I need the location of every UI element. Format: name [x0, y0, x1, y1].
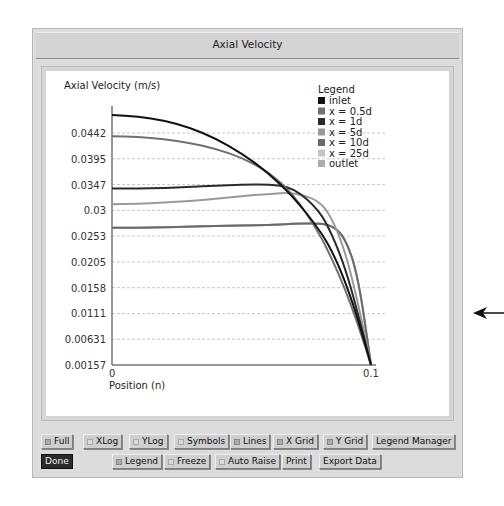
y-tick-label: 0.0395 — [71, 154, 106, 165]
y-tick-label: 0.0442 — [71, 128, 106, 139]
full-label: Full — [54, 434, 69, 449]
legend-manager-label: Legend Manager — [376, 434, 451, 449]
legend-entry: x = 1d — [329, 116, 362, 127]
ylog-button[interactable]: YLog — [129, 434, 168, 449]
legend-swatch — [318, 118, 325, 125]
xlog-button[interactable]: XLog — [83, 434, 122, 449]
y-tick-label: 0.00157 — [65, 360, 106, 371]
ylog-label: YLog — [142, 434, 164, 449]
xlog-label: XLog — [96, 434, 118, 449]
y-axis-label: Axial Velocity (m/s) — [64, 80, 160, 91]
series-line — [112, 184, 371, 365]
legend-manager-button[interactable]: Legend Manager — [372, 434, 455, 449]
freeze-indicator-icon — [168, 459, 174, 465]
auto-raise-indicator-icon — [219, 459, 225, 465]
ylog-indicator-icon — [133, 439, 139, 445]
x-grid-button[interactable]: X Grid — [273, 434, 318, 449]
x-axis-label: Position (n) — [109, 380, 165, 391]
legend-entry: x = 25d — [329, 148, 369, 159]
y-tick-label: 0.0205 — [71, 257, 106, 268]
legend-swatch — [318, 97, 325, 104]
xlog-indicator-icon — [87, 439, 93, 445]
freeze-label: Freeze — [177, 454, 206, 469]
series-line — [112, 224, 371, 365]
axial-velocity-chart: Axial Velocity (m/s)0.04420.03950.03470.… — [46, 71, 451, 418]
y-tick-label: 0.0347 — [71, 180, 106, 191]
y-grid-indicator-icon — [327, 439, 333, 445]
legend-title: Legend — [318, 84, 355, 95]
lines-label: Lines — [243, 434, 266, 449]
pointer-arrow-icon — [473, 306, 504, 320]
legend-entry: inlet — [329, 95, 351, 106]
print-label: Print — [286, 454, 307, 469]
symbols-label: Symbols — [187, 434, 225, 449]
y-tick-label: 0.0253 — [71, 231, 106, 242]
legend-swatch — [318, 108, 325, 115]
legend-swatch — [318, 139, 325, 146]
x-grid-indicator-icon — [277, 439, 283, 445]
lines-button[interactable]: Lines — [230, 434, 270, 449]
legend-entry: x = 5d — [329, 127, 362, 138]
freeze-button[interactable]: Freeze — [164, 454, 210, 469]
auto-raise-button[interactable]: Auto Raise — [215, 454, 280, 469]
window-titlebar[interactable]: Axial Velocity — [36, 32, 459, 59]
y-grid-button[interactable]: Y Grid — [323, 434, 367, 449]
legend-swatch — [318, 150, 325, 157]
axial-velocity-window: Axial Velocity Axial Velocity (m/s)0.044… — [32, 28, 463, 478]
legend-entry: outlet — [329, 158, 358, 169]
export-data-button[interactable]: Export Data — [319, 454, 381, 469]
legend-button[interactable]: Legend — [112, 454, 162, 469]
series-line — [112, 224, 371, 365]
legend-indicator-icon — [116, 459, 122, 465]
auto-raise-label: Auto Raise — [228, 454, 276, 469]
y-tick-label: 0.03 — [84, 205, 106, 216]
full-button[interactable]: Full — [41, 434, 73, 449]
symbols-indicator-icon — [178, 439, 184, 445]
legend-entry: x = 10d — [329, 137, 369, 148]
window-title: Axial Velocity — [36, 38, 459, 50]
plot-frame: Axial Velocity (m/s)0.04420.03950.03470.… — [41, 66, 454, 421]
x-grid-label: X Grid — [286, 434, 314, 449]
done-button[interactable]: Done — [41, 454, 73, 469]
legend-swatch — [318, 129, 325, 136]
x-tick-label: 0 — [109, 368, 115, 379]
legend-label: Legend — [125, 454, 158, 469]
y-grid-label: Y Grid — [336, 434, 363, 449]
print-button[interactable]: Print — [282, 454, 311, 469]
y-tick-label: 0.0111 — [71, 308, 106, 319]
symbols-button[interactable]: Symbols — [174, 434, 229, 449]
plot-area: Axial Velocity (m/s)0.04420.03950.03470.… — [46, 71, 449, 416]
y-tick-label: 0.0158 — [71, 283, 106, 294]
y-tick-label: 0.00631 — [65, 334, 106, 345]
series-line — [112, 224, 371, 365]
full-indicator-icon — [45, 439, 51, 445]
export-data-label: Export Data — [323, 454, 377, 469]
x-tick-label: 0.1 — [363, 368, 379, 379]
legend-entry: x = 0.5d — [329, 106, 372, 117]
done-label: Done — [45, 454, 69, 469]
legend-swatch — [318, 160, 325, 167]
lines-indicator-icon — [234, 439, 240, 445]
